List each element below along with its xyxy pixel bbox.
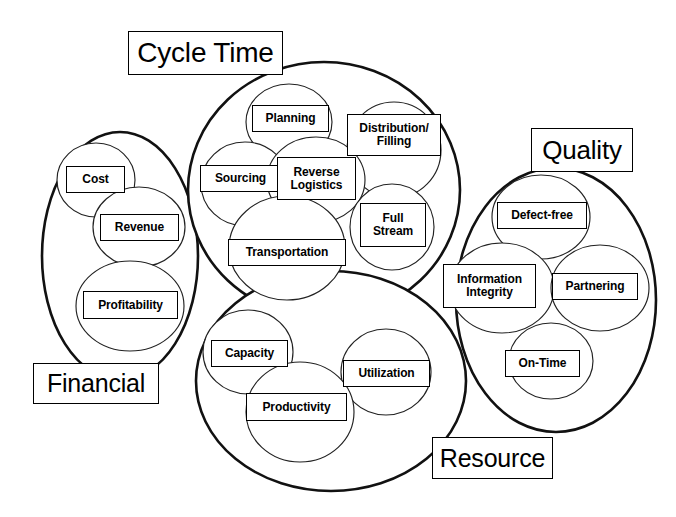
- metric-label-box: Information Integrity: [443, 264, 536, 308]
- metric-label-box: Utilization: [343, 360, 430, 387]
- venn-diagram: CostRevenueProfitabilityPlanningDistribu…: [0, 0, 676, 517]
- metric-label-box: Defect-free: [497, 202, 587, 229]
- metric-label-box: Transportation: [228, 239, 346, 266]
- metric-label-box: Cost: [66, 166, 125, 193]
- cluster-title-financial: Financial: [33, 363, 159, 404]
- metric-label-box: Planning: [252, 105, 329, 132]
- metric-label-box: Revenue: [100, 214, 179, 241]
- metric-label-box: Distribution/ Filling: [347, 114, 441, 156]
- metric-label-box: Reverse Logistics: [277, 157, 356, 200]
- cluster-title-quality: Quality: [531, 128, 633, 172]
- metric-label-box: Partnering: [552, 273, 638, 300]
- metric-label-box: On-Time: [505, 350, 580, 377]
- metric-label-box: Full Stream: [360, 203, 426, 247]
- cluster-title-cycle-time: Cycle Time: [128, 31, 283, 75]
- metric-label-box: Profitability: [83, 291, 178, 319]
- metric-label-box: Productivity: [246, 393, 347, 421]
- metric-label-box: Sourcing: [200, 165, 281, 192]
- metric-label-box: Capacity: [211, 340, 288, 367]
- cluster-title-resource: Resource: [432, 437, 553, 479]
